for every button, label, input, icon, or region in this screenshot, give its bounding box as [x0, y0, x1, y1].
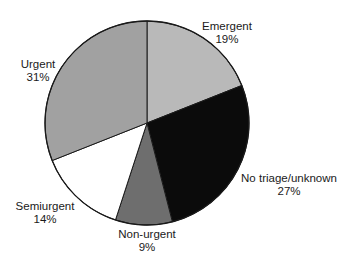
label-emergent: Emergent 19%	[202, 20, 252, 46]
pie-slices	[45, 21, 249, 225]
label-urgent-pct: 31%	[21, 71, 56, 84]
label-non-urgent: Non-urgent 9%	[118, 228, 176, 254]
label-no-triage: No triage/unknown 27%	[241, 172, 337, 198]
label-no-triage-name: No triage/unknown	[241, 172, 337, 185]
label-semiurgent-pct: 14%	[16, 213, 75, 226]
label-emergent-pct: 19%	[202, 33, 252, 46]
label-semiurgent: Semiurgent 14%	[16, 200, 75, 226]
label-non-urgent-name: Non-urgent	[118, 228, 176, 241]
label-urgent: Urgent 31%	[21, 58, 56, 84]
label-non-urgent-pct: 9%	[118, 241, 176, 254]
label-semiurgent-name: Semiurgent	[16, 200, 75, 213]
label-emergent-name: Emergent	[202, 20, 252, 33]
pie-chart	[0, 0, 354, 268]
label-urgent-name: Urgent	[21, 58, 56, 71]
label-no-triage-pct: 27%	[241, 185, 337, 198]
